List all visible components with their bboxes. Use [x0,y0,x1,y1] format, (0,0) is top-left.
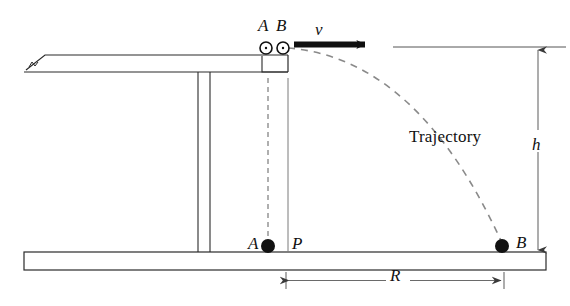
label-point-p: P [292,235,302,252]
ball-a-on-table-center-dot [265,47,267,49]
label-ball-b-on-table: B [276,17,286,34]
floor-slab [24,252,546,270]
diagram-canvas [0,0,570,306]
table-group [24,55,288,252]
guide-lines-group [262,56,288,252]
label-height: h [532,136,541,153]
label-range: R [390,267,400,284]
label-ball-a-landed: A [248,235,258,252]
floor-group [24,252,546,270]
label-ball-b-landed: B [516,234,526,251]
ball-b-on-table-center-dot [282,47,284,49]
projectile-motion-diagram: A B v Trajectory h A P B R [0,0,570,306]
ball-a-landed-icon [261,239,275,253]
ball-support-bracket [262,56,288,72]
table-top-surface [26,55,288,70]
label-trajectory: Trajectory [409,128,481,145]
ball-b-landed-icon [495,239,509,253]
label-velocity: v [315,21,323,38]
label-ball-a-on-table: A [258,17,268,34]
balls-on-table-group [260,42,289,54]
